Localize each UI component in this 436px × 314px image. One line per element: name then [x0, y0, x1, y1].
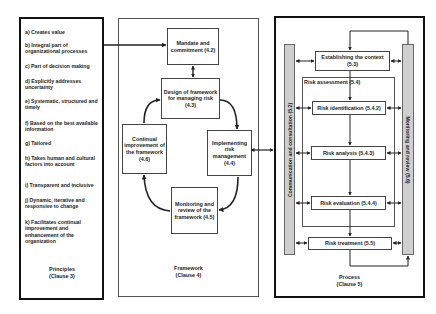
monitoring-to-continual-arrow	[144, 175, 170, 211]
implementing-to-monitoring-arrow	[219, 177, 238, 210]
monitoring-links	[387, 61, 401, 243]
feedback-loop-top	[350, 31, 408, 50]
continual-to-design-arrow	[144, 100, 160, 123]
connector-lines	[0, 0, 436, 314]
feedback-loop-bottom	[350, 250, 408, 266]
design-to-implementing-arrow	[220, 100, 237, 129]
communication-links	[296, 61, 314, 243]
